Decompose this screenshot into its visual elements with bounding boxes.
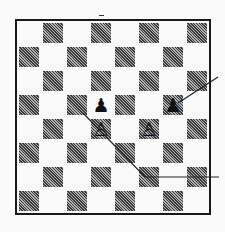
square-a6: [17, 69, 41, 93]
white-pawn-icon: ♙: [137, 117, 161, 141]
square-a8: [17, 21, 41, 45]
square-c2: [65, 165, 89, 189]
top-tick-mark: [99, 15, 104, 16]
square-g8: [161, 21, 185, 45]
black-pawn-icon: ♟: [161, 93, 185, 117]
square-f8: [137, 21, 161, 45]
square-h4: [185, 117, 209, 141]
square-a3: [17, 141, 41, 165]
square-g3: [161, 141, 185, 165]
square-b7: [41, 45, 65, 69]
square-g6: [161, 69, 185, 93]
square-c7: [65, 45, 89, 69]
square-c4: [65, 117, 89, 141]
square-e5: [113, 93, 137, 117]
square-d6: [89, 69, 113, 93]
square-b8: [41, 21, 65, 45]
square-b5: [41, 93, 65, 117]
square-f6: [137, 69, 161, 93]
square-e1: [113, 189, 137, 213]
square-e6: [113, 69, 137, 93]
square-d1: [89, 189, 113, 213]
square-a1: [17, 189, 41, 213]
square-e3: [113, 141, 137, 165]
square-h5: [185, 93, 209, 117]
square-b6: [41, 69, 65, 93]
square-g7: [161, 45, 185, 69]
square-c3: [65, 141, 89, 165]
square-d8: [89, 21, 113, 45]
square-c1: [65, 189, 89, 213]
square-a7: [17, 45, 41, 69]
square-a2: [17, 165, 41, 189]
square-f5: [137, 93, 161, 117]
square-c6: [65, 69, 89, 93]
square-d3: [89, 141, 113, 165]
square-c5: [65, 93, 89, 117]
square-e4: [113, 117, 137, 141]
square-g1: [161, 189, 185, 213]
square-g4: [161, 117, 185, 141]
square-h1: [185, 189, 209, 213]
square-g2: [161, 165, 185, 189]
square-e8: [113, 21, 137, 45]
square-b3: [41, 141, 65, 165]
square-h3: [185, 141, 209, 165]
chess-board: ♟♟♙♙: [15, 19, 211, 215]
white-pawn-icon: ♙: [89, 117, 113, 141]
square-b2: [41, 165, 65, 189]
square-f7: [137, 45, 161, 69]
black-pawn-icon: ♟: [89, 93, 113, 117]
square-h7: [185, 45, 209, 69]
square-h8: [185, 21, 209, 45]
square-f1: [137, 189, 161, 213]
square-h6: [185, 69, 209, 93]
square-b4: [41, 117, 65, 141]
square-c8: [65, 21, 89, 45]
square-f3: [137, 141, 161, 165]
square-e2: [113, 165, 137, 189]
square-h2: [185, 165, 209, 189]
square-a4: [17, 117, 41, 141]
square-d7: [89, 45, 113, 69]
square-b1: [41, 189, 65, 213]
square-d2: [89, 165, 113, 189]
square-a5: [17, 93, 41, 117]
square-e7: [113, 45, 137, 69]
square-f2: [137, 165, 161, 189]
